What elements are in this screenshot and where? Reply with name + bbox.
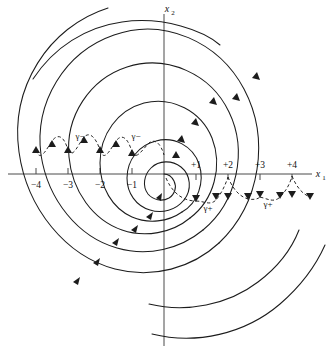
spiral-arc-outflow-2: [152, 245, 325, 338]
flow-arrow-icon-ur2: [232, 93, 240, 101]
flow-arrow-icon-ur3: [209, 97, 217, 105]
axis-labels-group: x 1 x 2: [164, 3, 326, 182]
flow-arrow-icon-r4: [256, 191, 264, 198]
y-axis-subscript: 2: [171, 9, 175, 17]
tick-label-neg1: −1: [127, 180, 137, 190]
tick-label-pos4: +4: [287, 160, 297, 170]
tick-label-pos2: +2: [223, 160, 233, 170]
flow-arrow-icon-ur4: [191, 118, 199, 126]
flow-arrow-icon-r1: [172, 151, 180, 158]
gamma-minus-label-1: γ−: [74, 131, 84, 141]
tick-label-neg2: −2: [95, 180, 105, 190]
poincare-arrow-icon-p4: [306, 193, 314, 200]
flow-arrow-icon-r3: [224, 193, 232, 200]
tick-label-neg3: −3: [63, 180, 73, 190]
spiral-arc-3: [69, 63, 239, 234]
flow-arrow-icon-ll3: [112, 238, 119, 246]
poincare-arrowheads-group: [48, 136, 314, 200]
tick-label-pos1: +1: [191, 160, 201, 170]
y-axis-label: x: [164, 3, 170, 14]
gamma-plus-label-1: γ+: [202, 203, 212, 213]
poincare-arc-neg-4: [132, 141, 164, 155]
phase-plane-figure: −4 −3 −2 −1 +1 +2 +3 +4 x 1 x 2 γ− γ− γ+…: [0, 0, 334, 360]
poincare-dashed-arcs-group: [36, 135, 310, 203]
poincare-arrow-icon-n3: [112, 140, 120, 147]
spiral-curves-group: [18, 8, 325, 338]
spiral-diagram-svg: −4 −3 −2 −1 +1 +2 +3 +4 x 1 x 2 γ− γ− γ+…: [0, 0, 334, 360]
section-labels-group: γ− γ− γ+ γ+: [74, 131, 272, 213]
poincare-arrow-icon-n1: [48, 140, 56, 147]
flow-arrow-icon-ll5: [146, 212, 153, 220]
flow-arrow-icon-ll2: [93, 258, 100, 266]
flow-arrow-icon-ll4: [131, 225, 138, 233]
x-axis-label: x: [315, 168, 321, 179]
gamma-plus-label-2: γ+: [262, 199, 272, 209]
poincare-arrow-icon-p3: [276, 192, 284, 199]
poincare-arrow-icon-p2: [244, 193, 252, 200]
flow-arrow-icon-l1: [32, 146, 40, 153]
gamma-minus-label-2: γ−: [130, 131, 140, 141]
axes-group: [8, 14, 312, 346]
spiral-arc-outer-left: [33, 21, 220, 79]
x-axis-subscript: 1: [322, 174, 326, 182]
spiral-arc-5: [18, 8, 219, 273]
flow-arrow-icon-r5: [288, 191, 296, 198]
poincare-arc-pos-3: [260, 176, 292, 200]
tick-label-neg4: −4: [31, 180, 41, 190]
flow-arrow-icon-ur1: [252, 72, 260, 80]
tick-label-pos3: +3: [255, 160, 265, 170]
flow-arrow-icon-ll1: [73, 277, 80, 285]
